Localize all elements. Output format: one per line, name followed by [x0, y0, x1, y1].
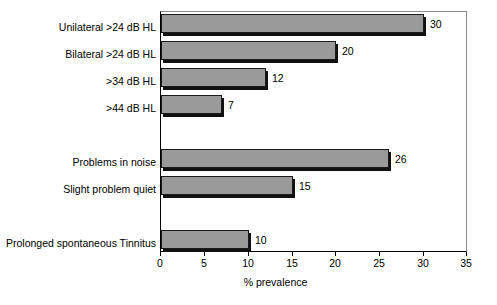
- category-label-44db: >44 dB HL: [106, 103, 156, 114]
- x-tick-label-30: 30: [417, 258, 429, 269]
- bar-problems-in-noise: 26: [161, 149, 389, 168]
- bar-value-label: 7: [228, 99, 234, 110]
- bar-slight-problem-quiet: 15: [161, 176, 293, 195]
- x-tick-mark-5: [204, 252, 205, 256]
- x-axis-title: % prevalence: [0, 277, 497, 288]
- category-label-bilateral-24db: Bilateral >24 dB HL: [65, 49, 156, 60]
- bar-44db: 7: [161, 95, 222, 114]
- bar-chart: Unilateral >24 dB HL Bilateral >24 dB HL…: [0, 0, 497, 305]
- bar-value-label: 20: [342, 45, 354, 56]
- bar-rect: [161, 176, 293, 195]
- bar-rect: [161, 68, 266, 87]
- x-axis-title-text: % prevalence: [244, 276, 308, 288]
- bar-rect: [161, 95, 222, 114]
- x-tick-label-0: 0: [157, 258, 163, 269]
- bar-value-label: 26: [395, 153, 407, 164]
- x-tick-mark-10: [248, 252, 249, 256]
- x-tick-label-15: 15: [286, 258, 298, 269]
- x-tick-label-5: 5: [201, 258, 207, 269]
- x-tick-label-35: 35: [460, 258, 472, 269]
- category-label-problems-in-noise: Problems in noise: [73, 157, 156, 168]
- x-tick-mark-35: [466, 252, 467, 256]
- bar-rect: [161, 41, 336, 60]
- bar-34db: 12: [161, 68, 266, 87]
- bar-rect: [161, 14, 424, 33]
- bar-rect: [161, 149, 389, 168]
- bar-prolonged-tinnitus: 10: [161, 230, 249, 249]
- bar-value-label: 30: [430, 18, 442, 29]
- category-label-34db: >34 dB HL: [106, 76, 156, 87]
- x-tick-mark-20: [335, 252, 336, 256]
- bar-rect: [161, 230, 249, 249]
- x-tick-mark-15: [292, 252, 293, 256]
- x-tick-mark-0: [160, 252, 161, 256]
- x-tick-mark-30: [423, 252, 424, 256]
- bar-bilateral-24db: 20: [161, 41, 336, 60]
- x-tick-label-10: 10: [242, 258, 254, 269]
- x-tick-label-25: 25: [373, 258, 385, 269]
- bar-value-label: 12: [272, 72, 284, 83]
- bar-value-label: 15: [299, 180, 311, 191]
- category-label-prolonged-tinnitus: Prolonged spontaneous Tinnitus: [6, 238, 156, 249]
- category-label-slight-problem-quiet: Slight problem quiet: [63, 184, 156, 195]
- category-label-unilateral-24db: Unilateral >24 dB HL: [59, 22, 156, 33]
- x-tick-label-20: 20: [329, 258, 341, 269]
- bar-unilateral-24db: 30: [161, 14, 424, 33]
- x-tick-mark-25: [379, 252, 380, 256]
- bar-value-label: 10: [255, 234, 267, 245]
